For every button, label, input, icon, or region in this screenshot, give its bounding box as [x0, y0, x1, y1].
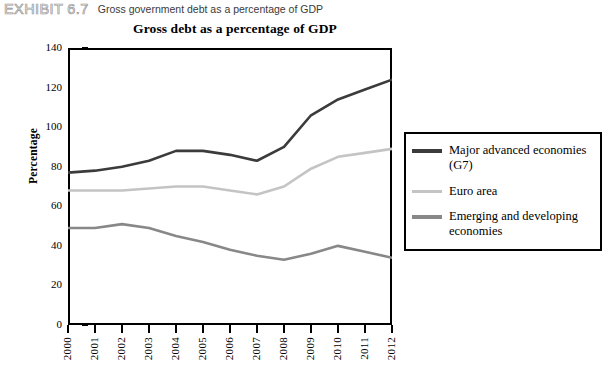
y-axis-tick-80: 80 [22, 161, 62, 172]
x-axis-tick-2003: 2003 [143, 337, 154, 360]
legend-label-emerging: Emerging and developing economies [449, 209, 592, 239]
legend-item: Major advanced economies (G7) [412, 143, 592, 173]
x-axis-tick-2005: 2005 [197, 337, 208, 360]
legend-swatch-emerging [412, 215, 442, 219]
x-axis-tick-mark [121, 325, 123, 333]
plot-lines [68, 48, 392, 325]
x-axis-tick-mark [364, 325, 366, 333]
y-axis-tick-40: 40 [22, 240, 62, 251]
x-axis-tick-2012: 2012 [386, 337, 397, 360]
y-axis-tick-labels: 020406080100120140 [20, 0, 62, 368]
x-axis-tick-2007: 2007 [251, 337, 262, 360]
chart-title: Gross debt as a percentage of GDP [0, 21, 470, 37]
x-axis-tick-2002: 2002 [116, 337, 127, 360]
x-axis-tick-2010: 2010 [332, 337, 343, 360]
series-line [68, 224, 392, 260]
x-axis-tick-mark [67, 325, 69, 333]
x-axis-tick-2009: 2009 [305, 337, 316, 360]
y-axis-tick-140: 140 [22, 42, 62, 53]
y-axis-tick-0: 0 [22, 319, 62, 330]
x-axis-tick-mark [283, 325, 285, 333]
x-axis-tick-mark [94, 325, 96, 333]
x-axis-tick-mark [175, 325, 177, 333]
legend-item: Euro area [412, 184, 592, 199]
series-line [68, 80, 392, 173]
x-axis-tick-mark [229, 325, 231, 333]
x-axis-tick-2001: 2001 [89, 337, 100, 360]
x-axis-tick-2006: 2006 [224, 337, 235, 360]
x-axis-tick-mark [256, 325, 258, 333]
y-axis-tick-120: 120 [22, 82, 62, 93]
legend-label-euro-area: Euro area [449, 184, 497, 199]
legend-swatch-g7 [412, 149, 442, 153]
y-axis-tick-20: 20 [22, 279, 62, 290]
x-axis-tick-mark [391, 325, 393, 333]
x-axis-tick-mark [310, 325, 312, 333]
y-axis-tick-100: 100 [22, 121, 62, 132]
x-axis-tick-mark [202, 325, 204, 333]
x-axis-tick-2008: 2008 [278, 337, 289, 360]
legend-swatch-euro-area [412, 190, 442, 194]
x-axis-tick-2011: 2011 [359, 337, 370, 360]
y-axis-tick-60: 60 [22, 200, 62, 211]
legend-item: Emerging and developing economies [412, 209, 592, 239]
x-axis-tick-2000: 2000 [62, 337, 73, 360]
chart-legend: Major advanced economies (G7) Euro area … [404, 132, 602, 251]
x-axis-tick-mark [148, 325, 150, 333]
x-axis-tick-2004: 2004 [170, 337, 181, 360]
x-axis-tick-mark [337, 325, 339, 333]
legend-label-g7: Major advanced economies (G7) [449, 143, 592, 173]
